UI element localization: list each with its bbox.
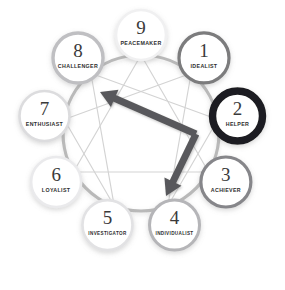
node-label-8: CHALLENGER xyxy=(58,63,98,69)
node-number-1: 1 xyxy=(199,40,209,61)
enneagram-node-8[interactable]: 8CHALLENGER xyxy=(53,33,103,83)
node-number-7: 7 xyxy=(40,98,50,119)
node-label-6: LOYALIST xyxy=(42,187,71,193)
enneagram-node-4[interactable]: 4INDIVIDUALIST xyxy=(150,200,200,250)
enneagram-node-2[interactable]: 2HELPER xyxy=(213,91,263,141)
enneagram-nodes: 1IDEALIST2HELPER3ACHIEVER4INDIVIDUALIST5… xyxy=(19,10,262,250)
arrow-shaft-to-4 xyxy=(171,134,196,185)
node-label-7: ENTHUSIAST xyxy=(26,121,64,127)
enneagram-node-5[interactable]: 5INVESTIGATOR xyxy=(82,200,132,250)
enneagram-node-6[interactable]: 6LOYALIST xyxy=(31,157,81,207)
enneagram-node-1[interactable]: 1IDEALIST xyxy=(179,33,229,83)
enneagram-node-7[interactable]: 7ENTHUSIAST xyxy=(19,91,69,141)
enneagram-node-3[interactable]: 3ACHIEVER xyxy=(201,157,251,207)
node-number-9: 9 xyxy=(136,17,146,38)
node-label-1: IDEALIST xyxy=(191,63,218,69)
node-number-8: 8 xyxy=(73,40,83,61)
node-label-2: HELPER xyxy=(226,121,250,127)
node-number-3: 3 xyxy=(221,164,231,185)
node-number-5: 5 xyxy=(103,207,113,228)
enneagram-node-9[interactable]: 9PEACEMAKER xyxy=(116,10,166,60)
node-label-5: INVESTIGATOR xyxy=(88,231,127,236)
enneagram-diagram: 1IDEALIST2HELPER3ACHIEVER4INDIVIDUALIST5… xyxy=(0,0,285,290)
node-label-4: INDIVIDUALIST xyxy=(156,231,194,236)
connection-arrow xyxy=(100,90,196,196)
enneagram-canvas: 1IDEALIST2HELPER3ACHIEVER4INDIVIDUALIST5… xyxy=(0,0,285,290)
node-number-4: 4 xyxy=(170,207,180,228)
node-label-9: PEACEMAKER xyxy=(120,40,161,46)
node-label-3: ACHIEVER xyxy=(211,187,241,193)
node-number-6: 6 xyxy=(51,164,61,185)
node-number-2: 2 xyxy=(233,98,243,119)
